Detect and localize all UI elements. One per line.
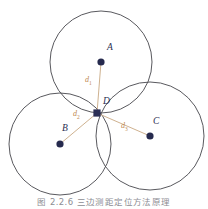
figure-caption: 图 2.2.6 三边测距定位方法原理 <box>37 196 170 208</box>
anchor-node-b-marker <box>56 140 63 147</box>
distance-label-d2-subscript: 2 <box>77 114 80 120</box>
node-label-a: A <box>107 43 113 53</box>
anchor-node-a-marker <box>97 58 104 65</box>
radius-line-a-to-d <box>97 62 101 113</box>
distance-label-d3-subscript: 3 <box>125 126 128 132</box>
node-label-d: D <box>103 97 110 107</box>
unknown-node-d-marker <box>93 109 100 116</box>
figure-container: A B C D d1 d2 d3 图 2.2.6 三边测距定位方法原理 <box>0 0 208 209</box>
node-label-c: C <box>153 117 159 127</box>
anchor-node-c-marker <box>146 132 153 139</box>
figure-caption-bar: 图 2.2.6 三边测距定位方法原理 <box>0 196 208 209</box>
distance-label-d3: d3 <box>121 122 128 132</box>
distance-label-d1: d1 <box>85 76 92 86</box>
distance-label-d1-subscript: 1 <box>89 80 92 86</box>
node-label-b: B <box>62 124 68 134</box>
distance-label-d2: d2 <box>73 110 80 120</box>
